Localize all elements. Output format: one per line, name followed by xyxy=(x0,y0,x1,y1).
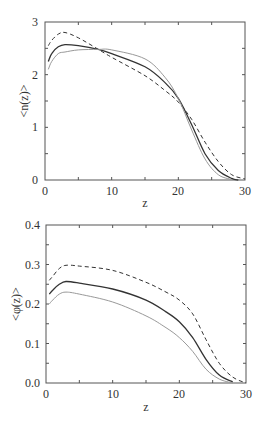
y-tick-label: 0.4 xyxy=(25,218,40,232)
plot-phi-of-z: 0.0 0.1 0.2 0.3 0.4 0 10 20 30 z <φ(z)> xyxy=(9,218,252,414)
x-tick-label: 30 xyxy=(240,387,252,401)
x-tick-label: 0 xyxy=(43,387,49,401)
x-tick-label: 10 xyxy=(106,184,118,198)
plot-n-of-z: 0 1 2 3 0 10 20 30 z <n(z)> xyxy=(17,15,251,210)
series-dotted-line xyxy=(48,49,231,179)
series-dashed-line xyxy=(48,32,245,179)
y-axis-label: <φ(z)> xyxy=(9,287,23,321)
curves xyxy=(49,265,246,383)
y-axis-label: <n(z)> xyxy=(17,84,31,117)
y-tick-label: 0.1 xyxy=(25,337,40,351)
x-tick-label: 0 xyxy=(42,184,48,198)
y-tick-label: 0 xyxy=(32,173,38,187)
y-tick-label: 2 xyxy=(32,68,38,82)
y-tick-label: 1 xyxy=(32,120,38,134)
y-tick-label: 0.3 xyxy=(25,258,40,272)
series-solid-line xyxy=(48,45,238,180)
x-tick-label: 30 xyxy=(239,184,251,198)
x-axis-label: z xyxy=(143,400,148,414)
x-axis-label: z xyxy=(142,196,147,210)
curves xyxy=(48,32,245,180)
plot-frame xyxy=(46,225,246,383)
y-tick-label: 3 xyxy=(32,15,38,29)
figure: 0 1 2 3 0 10 20 30 z <n(z)> 0.0 0.1 0.2 … xyxy=(0,0,268,426)
y-tick-label: 0.0 xyxy=(25,376,40,390)
x-tick-label: 20 xyxy=(172,184,184,198)
series-solid-line xyxy=(49,281,232,381)
ticks xyxy=(46,225,246,383)
x-tick-label: 20 xyxy=(173,387,185,401)
x-tick-label: 10 xyxy=(107,387,119,401)
y-tick-label: 0.2 xyxy=(25,297,40,311)
